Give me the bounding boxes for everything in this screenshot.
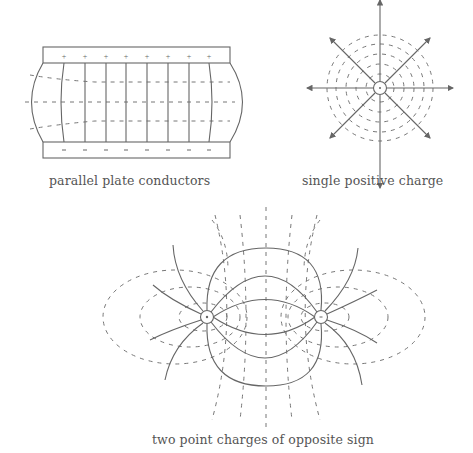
diagram-canvas: + + + + + + + + <box>0 0 473 453</box>
svg-text:+: + <box>166 52 171 61</box>
svg-text:+: + <box>187 52 192 61</box>
dipole-equipotentials <box>103 207 425 430</box>
dipole-field-lines <box>150 245 377 386</box>
caption-single-charge: single positive charge <box>302 173 443 188</box>
svg-text:+: + <box>207 52 212 61</box>
dipole-figure <box>103 207 425 430</box>
svg-text:+: + <box>145 52 150 61</box>
svg-text:+: + <box>62 52 67 61</box>
svg-text:+: + <box>83 52 88 61</box>
caption-parallel-plates: parallel plate conductors <box>49 173 210 188</box>
svg-text:+: + <box>124 52 129 61</box>
top-plate <box>43 47 230 63</box>
caption-dipole: two point charges of opposite sign <box>152 432 374 447</box>
parallel-plate-figure: + + + + + + + + <box>25 47 243 158</box>
bottom-plate <box>43 142 230 158</box>
single-charge-figure <box>307 0 453 188</box>
svg-text:+: + <box>104 52 109 61</box>
plate-equipotentials <box>25 75 235 129</box>
